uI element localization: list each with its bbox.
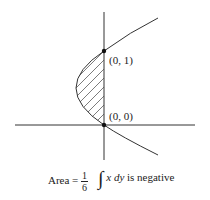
graph: (0, 1) (0, 0) <box>0 0 210 200</box>
hatched-region <box>60 36 110 176</box>
point-0-0 <box>102 123 106 127</box>
integral-caption: ∫ x dy is negative <box>98 171 174 185</box>
label-0-1: (0, 1) <box>109 54 133 67</box>
integral-sign: ∫ <box>98 167 103 189</box>
integral-note: is negative <box>127 171 174 183</box>
fraction-denominator: 6 <box>81 182 88 193</box>
label-0-0: (0, 0) <box>109 110 133 123</box>
parabola-curve <box>76 18 158 155</box>
integrand-dy: dy <box>114 171 124 183</box>
figure: (0, 1) (0, 0) Area = 1 6 ∫ x dy is negat… <box>0 0 210 200</box>
area-fraction: 1 6 <box>81 170 88 193</box>
point-0-1 <box>102 49 106 53</box>
fraction-numerator: 1 <box>81 170 88 182</box>
area-caption: Area = 1 6 <box>48 170 88 193</box>
area-label: Area = <box>48 174 78 186</box>
integrand-x: x <box>106 171 111 183</box>
